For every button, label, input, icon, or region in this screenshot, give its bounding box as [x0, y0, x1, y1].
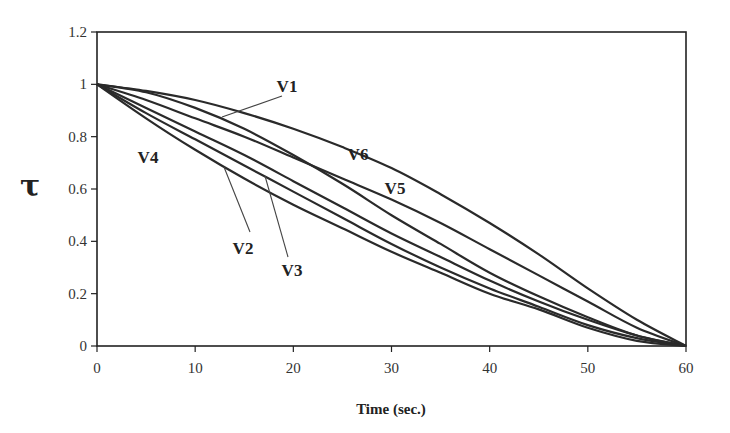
leader-line-v2	[224, 167, 250, 232]
x-tick-label: 50	[580, 360, 595, 376]
leader-line-v1	[222, 96, 282, 117]
y-tick-label: 1.2	[68, 24, 87, 40]
x-tick-label: 0	[93, 360, 101, 376]
label-v4: V4	[138, 148, 159, 167]
y-tick-label: 0.4	[68, 233, 87, 249]
label-v1: V1	[277, 77, 298, 96]
x-tick-label: 30	[384, 360, 399, 376]
y-tick-label: 0.2	[68, 286, 87, 302]
x-tick-label: 10	[188, 360, 203, 376]
x-axis: 0102030405060	[93, 346, 693, 376]
label-v6: V6	[348, 145, 369, 164]
label-v2: V2	[233, 239, 254, 258]
y-tick-label: 1	[80, 76, 88, 92]
y-tick-label: 0.8	[68, 129, 87, 145]
label-leader-lines	[222, 96, 288, 257]
y-tick-label: 0	[80, 338, 88, 354]
x-axis-title: Time (sec.)	[356, 401, 426, 418]
label-v3: V3	[282, 261, 303, 280]
x-tick-label: 20	[286, 360, 301, 376]
y-tick-label: 0.6	[68, 181, 87, 197]
x-tick-label: 60	[679, 360, 694, 376]
label-v5: V5	[385, 179, 406, 198]
series-labels: V1V6V5V4V2V3	[138, 77, 406, 280]
line-chart: 00.20.40.60.811.2 0102030405060 V1V6V5V4…	[0, 0, 730, 433]
y-axis: 00.20.40.60.811.2	[68, 24, 97, 354]
y-axis-title: τ	[20, 168, 40, 203]
series-curves	[97, 84, 686, 346]
x-tick-label: 40	[482, 360, 497, 376]
